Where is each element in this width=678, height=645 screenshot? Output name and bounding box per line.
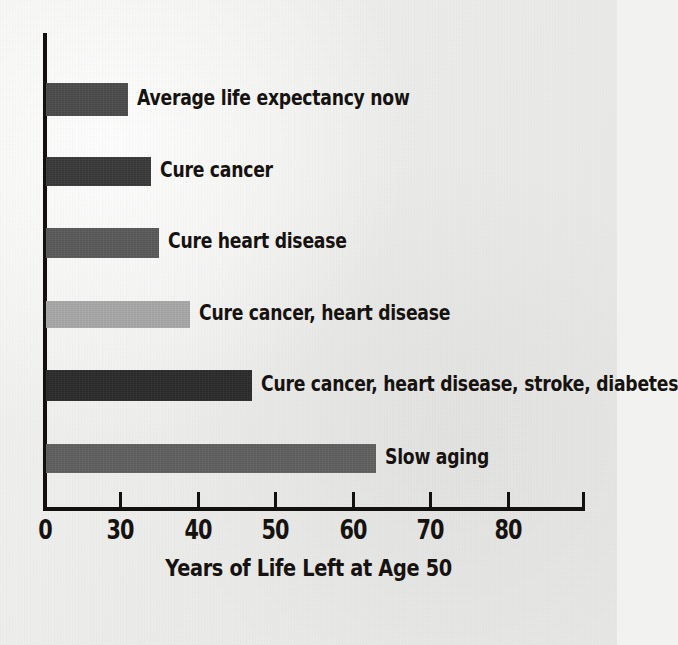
- bar: [46, 444, 376, 473]
- bar-label: Average life expectancy now: [137, 86, 410, 110]
- bar-fill: [46, 301, 190, 328]
- x-axis-tick-label: 70: [406, 515, 454, 545]
- bar: [46, 228, 159, 258]
- x-axis-tick: [197, 492, 200, 508]
- bar-fill: [46, 370, 252, 401]
- x-axis-line: [43, 507, 585, 511]
- x-axis-tick-label: 30: [96, 515, 144, 545]
- bar-fill: [46, 228, 159, 258]
- bar-label: Slow aging: [385, 445, 489, 469]
- x-axis-tick: [507, 492, 510, 508]
- x-axis-tick-label: 60: [329, 515, 377, 545]
- x-axis-tick: [429, 492, 432, 508]
- x-axis-tick-label: 0: [21, 515, 69, 545]
- x-axis-tick-label: 80: [484, 515, 532, 545]
- x-axis-tick: [352, 492, 355, 508]
- x-axis-tick-label: 40: [174, 515, 222, 545]
- bar-label: Cure cancer, heart disease, stroke, diab…: [261, 372, 678, 396]
- bar-fill: [46, 444, 376, 473]
- x-axis-title: Years of Life Left at Age 50: [0, 555, 617, 581]
- bar-fill: [46, 157, 151, 186]
- bar-label: Cure cancer, heart disease: [199, 301, 450, 325]
- x-axis-tick: [119, 492, 122, 508]
- x-axis-title-text: Years of Life Left at Age 50: [165, 555, 452, 581]
- bar: [46, 370, 252, 401]
- x-axis-end-cap: [582, 492, 585, 511]
- bar: [46, 301, 190, 328]
- x-axis-tick: [274, 492, 277, 508]
- bar: [46, 157, 151, 186]
- x-axis-tick-label: 50: [251, 515, 299, 545]
- bar: [46, 83, 128, 116]
- bar-label: Cure cancer: [160, 158, 273, 182]
- bar-label: Cure heart disease: [168, 229, 347, 253]
- bar-fill: [46, 83, 128, 116]
